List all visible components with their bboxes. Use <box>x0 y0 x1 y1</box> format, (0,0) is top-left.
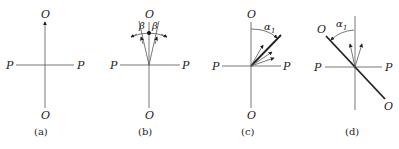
panel-b: O β β O P P (b) <box>109 8 190 137</box>
label-bottom-o: O <box>247 109 256 122</box>
label-alpha: α <box>264 21 271 32</box>
caption-a: (a) <box>34 126 48 137</box>
label-right-p: P <box>181 59 190 72</box>
label-top-o: O <box>317 23 326 36</box>
label-alpha: α <box>336 18 343 29</box>
label-beta-left: β <box>138 20 145 31</box>
label-left-p: P <box>211 60 220 73</box>
label-bottom-o: O <box>145 109 154 122</box>
label-left-p: P <box>5 59 14 72</box>
caption-d: (d) <box>345 126 359 137</box>
caption-b: (b) <box>138 126 152 137</box>
label-right-p: P <box>384 61 393 74</box>
label-beta-right: β <box>151 20 158 31</box>
label-bottom-o: O <box>384 100 393 113</box>
caption-c: (c) <box>241 126 255 137</box>
panel-a: O O P P (a) <box>5 8 85 137</box>
tilted-polarizer-line <box>251 35 281 66</box>
arc-arrow-right <box>161 34 167 37</box>
label-right-p: P <box>282 60 291 73</box>
label-alpha-subscript: 1 <box>343 24 347 32</box>
arrow-right <box>355 44 362 67</box>
polarization-diagram: O O P P (a) O β β O P P (b) O α 1 O <box>0 0 399 149</box>
label-top-o: O <box>41 8 50 21</box>
label-alpha-subscript: 1 <box>271 27 275 35</box>
label-bottom-o: O <box>41 109 50 122</box>
center-dot <box>147 31 151 35</box>
panel-c: O α 1 O P P (c) <box>211 8 291 137</box>
label-left-p: P <box>313 61 322 74</box>
tilted-polarizer-line <box>326 36 385 99</box>
label-top-o: O <box>247 8 256 21</box>
label-right-p: P <box>76 59 85 72</box>
panel-d: O α 1 O P P (d) <box>313 16 393 137</box>
label-left-p: P <box>109 59 118 72</box>
arc-arrow-left <box>131 34 137 37</box>
